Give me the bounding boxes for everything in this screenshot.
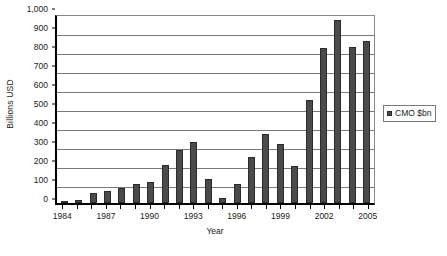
bar-slot (316, 16, 330, 203)
y-tick-label: 800 (34, 43, 48, 51)
x-tick-mark (208, 205, 209, 209)
y-tick-label: 300 (34, 138, 48, 146)
x-tick-mark (222, 205, 223, 209)
bar[interactable] (205, 179, 212, 203)
x-tick-mark (237, 205, 238, 209)
x-tick-mark (251, 205, 252, 209)
x-tick-slot (360, 205, 375, 210)
y-tick-label: 900 (34, 24, 48, 32)
y-tick-label: 600 (34, 81, 48, 89)
bar-slot (129, 16, 143, 203)
bar-slot (172, 16, 186, 203)
bar[interactable] (349, 47, 356, 203)
bar[interactable] (104, 191, 111, 203)
bar[interactable] (90, 193, 97, 203)
bar[interactable] (190, 142, 197, 203)
x-label-slot (113, 211, 128, 223)
bar[interactable] (363, 41, 370, 203)
bar-slot (201, 16, 215, 203)
y-tick-label: 400 (34, 119, 48, 127)
x-tick-mark (62, 205, 63, 209)
x-tick-slot (288, 205, 303, 210)
x-tick-slot (317, 205, 332, 210)
bar-slot (288, 16, 302, 203)
plot-area (55, 15, 375, 205)
y-tick-label: 0 (43, 195, 48, 203)
bar[interactable] (118, 188, 125, 203)
x-label-slot: 2002 (317, 211, 332, 223)
y-axis-tick-labels: 01002003004005006007008009001,000 (14, 9, 52, 205)
x-tick-mark (150, 205, 151, 209)
x-label-slot: 1984 (55, 211, 70, 223)
x-tick-mark (135, 205, 136, 209)
x-tick-mark (295, 205, 296, 209)
x-tick-mark (324, 205, 325, 209)
x-tick-slot (157, 205, 172, 210)
bar[interactable] (248, 157, 255, 203)
x-label-slot: 1993 (186, 211, 201, 223)
x-tick-slot (128, 205, 143, 210)
bar-slot (143, 16, 157, 203)
x-tick-slot (200, 205, 215, 210)
x-tick-mark (339, 205, 340, 209)
bar-slot (259, 16, 273, 203)
x-axis-tick-marks (55, 205, 375, 210)
x-tick-slot (113, 205, 128, 210)
x-label-slot: 1996 (230, 211, 245, 223)
bar[interactable] (162, 165, 169, 203)
bar[interactable] (147, 182, 154, 203)
x-axis-title: Year (55, 226, 375, 236)
bar-slot (244, 16, 258, 203)
bar[interactable] (219, 198, 226, 203)
y-tick-label: 200 (34, 157, 48, 165)
bar-slot (71, 16, 85, 203)
bar-slot (345, 16, 359, 203)
x-tick-label: 2005 (358, 211, 377, 221)
x-tick-mark (91, 205, 92, 209)
bar[interactable] (262, 134, 269, 203)
bar[interactable] (277, 144, 284, 203)
bar[interactable] (176, 150, 183, 203)
x-tick-slot (244, 205, 259, 210)
bar-slot (331, 16, 345, 203)
bar-slot (215, 16, 229, 203)
bar-chart-figure: Billions USD 010020030040050060070080090… (0, 0, 447, 256)
bars-layer (57, 16, 374, 203)
x-tick-slot (346, 205, 361, 210)
x-label-slot: 2005 (360, 211, 375, 223)
x-tick-slot (171, 205, 186, 210)
x-tick-mark (368, 205, 369, 209)
x-tick-slot (331, 205, 346, 210)
bar[interactable] (320, 48, 327, 203)
x-tick-slot (215, 205, 230, 210)
x-tick-slot (70, 205, 85, 210)
bar-slot (302, 16, 316, 203)
legend-swatch-icon (387, 111, 392, 116)
x-label-slot: 1999 (273, 211, 288, 223)
x-tick-mark (77, 205, 78, 209)
chart-legend: CMO $bn (383, 105, 436, 122)
bar[interactable] (234, 184, 241, 203)
x-tick-mark (120, 205, 121, 209)
x-tick-mark (266, 205, 267, 209)
bar[interactable] (334, 20, 341, 203)
bar-slot (115, 16, 129, 203)
x-tick-slot (259, 205, 274, 210)
bar[interactable] (75, 200, 82, 203)
x-label-slot (157, 211, 172, 223)
bar[interactable] (291, 166, 298, 203)
bar[interactable] (133, 184, 140, 203)
bar[interactable] (306, 100, 313, 203)
x-tick-slot (84, 205, 99, 210)
bar-slot (273, 16, 287, 203)
x-tick-slot (142, 205, 157, 210)
x-tick-mark (310, 205, 311, 209)
x-label-slot: 1987 (99, 211, 114, 223)
bar-slot (100, 16, 114, 203)
x-label-slot (288, 211, 303, 223)
x-tick-mark (353, 205, 354, 209)
y-tick-label: 100 (34, 176, 48, 184)
y-tick-label: 1,000 (27, 5, 48, 13)
legend-label: CMO $bn (395, 109, 431, 118)
bar[interactable] (61, 201, 68, 203)
